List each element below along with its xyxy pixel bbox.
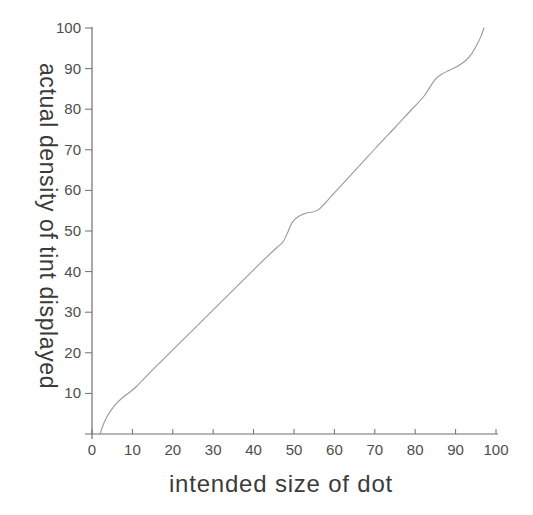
y-tick-label: 60 [64, 181, 81, 198]
x-axis-title: intended size of dot [81, 470, 481, 500]
x-tick-label: 100 [483, 441, 508, 458]
x-tick-label: 0 [88, 441, 96, 458]
y-tick-label: 40 [64, 263, 81, 280]
x-tick-label: 50 [286, 441, 303, 458]
y-axis-title: actual density of tint displayed [31, 26, 61, 426]
plot-canvas: 0102030405060708090100102030405060708090… [0, 0, 533, 515]
y-tick-label: 30 [64, 303, 81, 320]
y-tick-label: 10 [64, 384, 81, 401]
density-curve [100, 28, 484, 434]
x-tick-label: 90 [447, 441, 464, 458]
x-tick-label: 60 [326, 441, 343, 458]
x-tick-label: 30 [205, 441, 222, 458]
y-tick-label: 80 [64, 100, 81, 117]
y-tick-label: 50 [64, 222, 81, 239]
chart-figure: 0102030405060708090100102030405060708090… [0, 0, 533, 515]
x-tick-label: 80 [407, 441, 424, 458]
y-tick-label: 20 [64, 344, 81, 361]
x-tick-label: 40 [245, 441, 262, 458]
x-tick-label: 10 [124, 441, 141, 458]
x-tick-label: 70 [366, 441, 383, 458]
x-tick-label: 20 [164, 441, 181, 458]
y-tick-label: 90 [64, 60, 81, 77]
y-tick-label: 70 [64, 141, 81, 158]
